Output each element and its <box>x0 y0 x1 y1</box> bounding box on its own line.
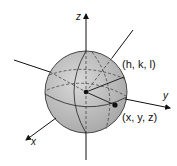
surface-point <box>112 102 117 107</box>
y-axis-label: y <box>162 90 169 101</box>
x-axis-label: x <box>30 136 37 147</box>
center-point <box>84 90 89 95</box>
x-axis-back <box>112 30 133 58</box>
surface-point-label: (x, y, z) <box>122 111 157 123</box>
z-axis-label: z <box>75 11 81 22</box>
center-label: (h, k, l) <box>122 58 156 70</box>
sphere-diagram: z y x (h, k, l) (x, y, z) <box>0 0 177 166</box>
y-axis-back <box>14 60 50 72</box>
